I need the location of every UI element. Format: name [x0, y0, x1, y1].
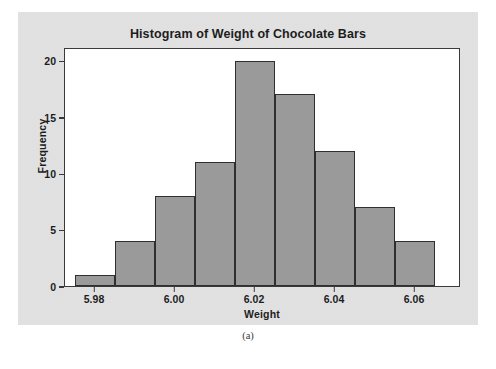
- histogram-bar: [115, 241, 155, 286]
- x-axis-tick: 6.06: [404, 287, 424, 305]
- x-axis-title: Weight: [64, 308, 460, 320]
- histogram-bar: [155, 196, 195, 286]
- histogram-bar: [395, 241, 435, 286]
- plot-area: [64, 48, 460, 287]
- y-axis-tick-label: 10: [44, 169, 59, 180]
- figure-root: Histogram of Weight of Chocolate Bars Fr…: [0, 0, 496, 369]
- histogram-bars: [65, 49, 459, 286]
- x-axis-tick-label: 6.06: [404, 294, 424, 305]
- y-axis-tick-label: 20: [44, 56, 59, 67]
- histogram-bar: [75, 275, 115, 286]
- histogram-bar: [275, 94, 315, 286]
- x-axis-tick-mark: [253, 287, 254, 292]
- chart-title: Histogram of Weight of Chocolate Bars: [18, 27, 478, 41]
- y-axis-tick-label: 0: [50, 282, 59, 293]
- x-axis-tick-label: 6.02: [244, 294, 264, 305]
- x-axis-tick-label: 5.98: [84, 294, 104, 305]
- x-axis-tick: 5.98: [84, 287, 104, 305]
- x-axis-tick: 6.00: [164, 287, 184, 305]
- x-axis-tick-mark: [333, 287, 334, 292]
- x-axis-tick-mark: [93, 287, 94, 292]
- histogram-bar: [315, 151, 355, 286]
- chart-panel: Histogram of Weight of Chocolate Bars Fr…: [18, 12, 478, 325]
- y-axis-tick-label: 15: [44, 113, 59, 124]
- histogram-bar: [195, 162, 235, 286]
- figure-caption: (a): [18, 330, 478, 341]
- x-axis-tick-mark: [413, 287, 414, 292]
- x-axis-tick-label: 6.00: [164, 294, 184, 305]
- x-axis-tick-label: 6.04: [324, 294, 344, 305]
- x-axis-tick: 6.02: [244, 287, 264, 305]
- x-axis-tick-mark: [173, 287, 174, 292]
- histogram-bar: [235, 61, 275, 286]
- y-axis-tick-label: 5: [50, 225, 59, 236]
- x-axis-tick: 6.04: [324, 287, 344, 305]
- y-axis-ticks: 05101520: [18, 12, 64, 325]
- histogram-bar: [355, 207, 395, 286]
